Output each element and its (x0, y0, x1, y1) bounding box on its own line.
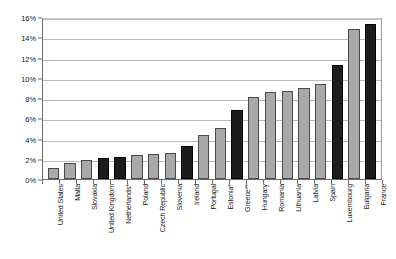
bar-slot (195, 19, 212, 179)
bar (365, 24, 376, 179)
bar (231, 110, 242, 179)
bar-slot (112, 19, 129, 179)
bar (265, 92, 276, 179)
bar (148, 154, 159, 179)
x-axis-labels: United StatesMaltaSlovakiaUnited Kingdom… (42, 184, 382, 258)
x-axis-label-slot: France (365, 184, 382, 258)
y-axis-tick-label: 16% (21, 14, 36, 23)
x-axis-label-slot: Bulgaria (348, 184, 365, 258)
bar-slot (296, 19, 313, 179)
bar-slot (346, 19, 363, 179)
bar-series (43, 19, 381, 179)
bar (348, 29, 359, 179)
bar (298, 88, 309, 179)
bar-slot (245, 19, 262, 179)
y-axis-tick-label: 8% (25, 95, 36, 104)
bar (282, 91, 293, 179)
bar-slot (95, 19, 112, 179)
bar (64, 163, 75, 179)
x-axis-label-slot: Hungary (246, 184, 263, 258)
bar-slot (129, 19, 146, 179)
bar-slot (279, 19, 296, 179)
y-axis-tick-label: 4% (25, 135, 36, 144)
bar-slot (45, 19, 62, 179)
bar-slot (312, 19, 329, 179)
bar-slot (329, 19, 346, 179)
bar-slot (362, 19, 379, 179)
x-axis-label-slot: United States (42, 184, 59, 258)
x-axis-label-slot: Romania (263, 184, 280, 258)
bar (48, 168, 59, 179)
bar (165, 153, 176, 179)
bar (332, 65, 343, 179)
bar-slot (229, 19, 246, 179)
x-axis-label-slot: Spain (314, 184, 331, 258)
x-axis-label-slot: Portugal (195, 184, 212, 258)
bar-slot (179, 19, 196, 179)
x-axis-label-slot: Slovenia (161, 184, 178, 258)
bar-chart: 0%2%4%6%8%10%12%14%16% United StatesMalt… (0, 0, 396, 259)
bar (131, 155, 142, 179)
x-axis-label-slot: Malta (59, 184, 76, 258)
x-axis-label-slot: United Kingdom (93, 184, 110, 258)
bar (181, 146, 192, 179)
x-axis-label-slot: Netherlands* (110, 184, 127, 258)
x-axis-tick-label: France (378, 184, 387, 205)
plot-area (42, 18, 382, 180)
x-axis-label-slot: Greece** (229, 184, 246, 258)
y-axis-labels: 0%2%4%6%8%10%12%14%16% (0, 18, 40, 180)
bar (215, 128, 226, 179)
bar (114, 157, 125, 179)
bar (315, 84, 326, 179)
x-axis-label-slot: Estonia* (212, 184, 229, 258)
x-axis-label-slot: Luxembourg (331, 184, 348, 258)
bar (198, 135, 209, 179)
x-axis-label-slot: Lithuania (280, 184, 297, 258)
x-axis-label-slot: Poland (127, 184, 144, 258)
y-axis-tick-label: 12% (21, 54, 36, 63)
x-axis-label-slot: Czech Republic (144, 184, 161, 258)
bar-slot (212, 19, 229, 179)
bar (98, 158, 109, 179)
bar-slot (162, 19, 179, 179)
y-axis-tick-label: 10% (21, 74, 36, 83)
x-axis-label-slot: Slovakia (76, 184, 93, 258)
bar-slot (78, 19, 95, 179)
y-axis-tick-label: 6% (25, 115, 36, 124)
y-axis-tick-label: 2% (25, 155, 36, 164)
y-axis-tick-label: 0% (25, 176, 36, 185)
bar-slot (145, 19, 162, 179)
bar-slot (62, 19, 79, 179)
bar (248, 97, 259, 179)
bar-slot (262, 19, 279, 179)
x-axis-label-slot: Latvia (297, 184, 314, 258)
y-axis-tick-label: 14% (21, 34, 36, 43)
bar (81, 160, 92, 179)
x-axis-label-slot: Ireland (178, 184, 195, 258)
